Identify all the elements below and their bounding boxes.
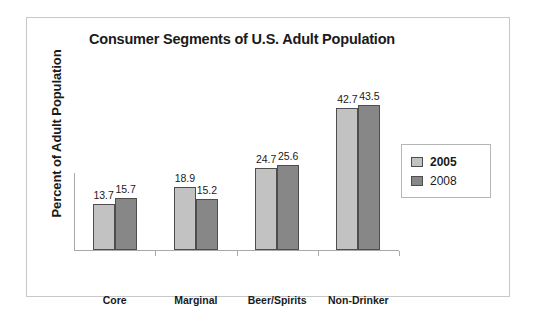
legend-swatch-icon [411, 157, 423, 167]
legend-label: 2008 [430, 174, 457, 188]
bar-pair [174, 187, 218, 250]
bar-core-2008[interactable] [115, 198, 137, 250]
legend-item-2008[interactable]: 2008 [411, 171, 490, 190]
bar-marginal-2005[interactable] [174, 187, 196, 250]
legend-swatch-icon [411, 176, 423, 186]
category-label-marginal: Marginal [155, 294, 236, 306]
chart-title: Consumer Segments of U.S. Adult Populati… [27, 31, 457, 47]
bar-beer-spirits-2005[interactable] [255, 168, 277, 250]
bar-group [174, 54, 218, 250]
category-label-core: Core [74, 294, 155, 306]
bar-non-drinker-2005[interactable] [336, 108, 358, 250]
y-axis-title: Percent of Adult Population [49, 39, 64, 229]
category-label-non-drinker: Non-Drinker [318, 294, 399, 306]
legend-label: 2005 [430, 155, 457, 169]
bar-core-2005[interactable] [93, 204, 115, 250]
plot-area: 13.715.718.915.224.725.642.743.5 CoreMar… [74, 54, 399, 251]
chart-legend: 20052008 [401, 144, 491, 198]
x-axis-tick [237, 251, 238, 256]
bar-pair [255, 165, 299, 250]
legend-item-2005[interactable]: 2005 [411, 152, 490, 171]
bar-group [336, 54, 380, 250]
bars-layer: 13.715.718.915.224.725.642.743.5 [74, 54, 399, 250]
x-axis-tick [399, 251, 400, 256]
bar-pair [336, 105, 380, 250]
bar-non-drinker-2008[interactable] [358, 105, 380, 250]
bar-beer-spirits-2008[interactable] [277, 165, 299, 250]
bar-group [93, 54, 137, 250]
bar-marginal-2008[interactable] [196, 199, 218, 250]
bar-pair [93, 198, 137, 250]
category-label-beer-spirits: Beer/Spirits [237, 294, 318, 306]
bar-group [255, 54, 299, 250]
x-axis-tick [318, 251, 319, 256]
x-axis-tick [155, 251, 156, 256]
chart-frame: Consumer Segments of U.S. Adult Populati… [26, 17, 510, 297]
